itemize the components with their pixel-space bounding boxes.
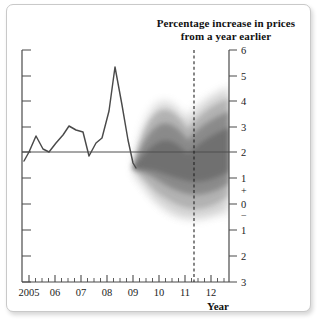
y-sign-plus: + [241,185,247,196]
y-tick-label-neg3: 3 [241,277,246,288]
y-axis-labels: 6 5 4 3 2 1 + 0 − 1 2 3 [241,45,247,288]
x-tick-label-11: 11 [180,287,190,298]
y-tick-label-4: 4 [241,96,247,107]
x-axis-labels: 2005 06 07 08 09 10 11 12 [19,287,217,298]
y-tick-label-neg2: 2 [241,251,246,262]
y-axis-right-ticks [229,50,237,282]
y-tick-label-0: 0 [241,199,246,210]
x-tick-label-09: 09 [128,287,139,298]
y-sign-minus: − [241,210,247,221]
chart-card: Percentage increase in prices from a yea… [6,4,311,312]
x-tick-label-10: 10 [154,287,165,298]
x-tick-label-12: 12 [206,287,217,298]
fan-smear [135,85,229,217]
y-tick-label-1: 1 [241,173,246,184]
y-tick-label-neg1: 1 [241,225,246,236]
y-axis-left-ticks [22,50,31,282]
x-tick-label-08: 08 [102,287,113,298]
y-tick-label-2: 2 [241,147,246,158]
x-tick-label-07: 07 [76,287,87,298]
fan-chart: 6 5 4 3 2 1 + 0 − 1 2 3 [7,5,310,311]
y-tick-label-5: 5 [241,71,246,82]
y-tick-label-3: 3 [241,122,246,133]
actual-inflation-line [24,67,136,168]
x-tick-label-2005: 2005 [19,287,40,298]
x-tick-label-06: 06 [50,287,61,298]
y-tick-label-6: 6 [241,45,246,56]
x-axis-title: Year [207,300,229,311]
